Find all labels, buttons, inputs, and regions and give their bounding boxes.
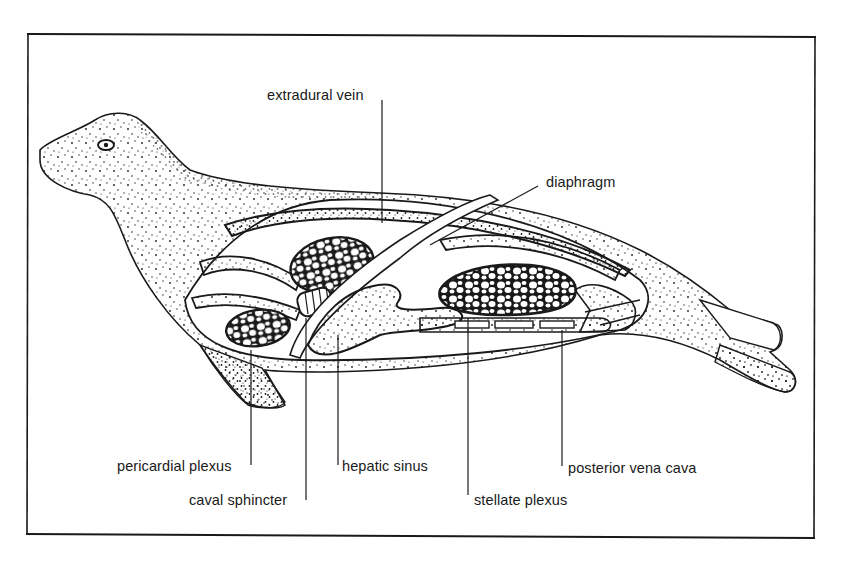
label-caval-sphincter: caval sphincter [189, 492, 287, 508]
body-cavity [185, 195, 648, 360]
label-extradural-vein: extradural vein [267, 87, 364, 103]
label-hepatic-sinus: hepatic sinus [342, 458, 428, 474]
label-stellate-plexus: stellate plexus [474, 492, 567, 508]
label-posterior-vena-cava: posterior vena cava [568, 460, 696, 476]
seal-venous-diagram [0, 0, 850, 562]
label-pericardial-plexus: pericardial plexus [117, 458, 232, 474]
label-diaphragm: diaphragm [546, 174, 615, 190]
eye-icon [98, 140, 114, 150]
